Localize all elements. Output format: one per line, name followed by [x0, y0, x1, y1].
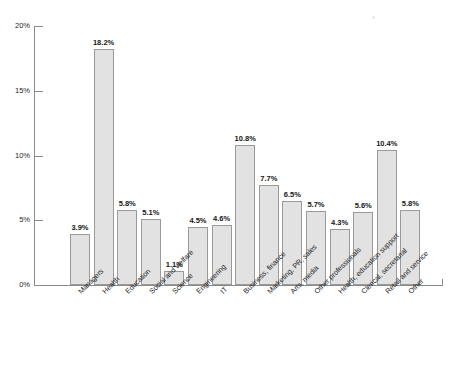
y-axis-tick [34, 91, 43, 92]
bar[interactable] [235, 145, 255, 285]
bar-value-label: 5.1% [131, 209, 171, 217]
bar-value-label: 5.8% [107, 200, 147, 208]
y-axis-tick-label: 0% [2, 281, 30, 289]
bar-value-label: 6.5% [272, 191, 312, 199]
y-axis-tick-label: 15% [2, 87, 30, 95]
y-axis-tick [34, 220, 43, 221]
bar-value-label: 5.8% [390, 200, 430, 208]
y-axis-tick [34, 156, 43, 157]
stray-mark [372, 16, 375, 19]
bar-value-label: 10.8% [225, 135, 265, 143]
bar[interactable] [117, 210, 137, 285]
y-axis-tick-label: 5% [2, 216, 30, 224]
x-axis-line [34, 285, 443, 286]
y-axis-tick-label: 20% [2, 22, 30, 30]
y-axis-tick [34, 26, 43, 27]
bar-value-label: 10.4% [367, 140, 407, 148]
x-axis-end-tick [442, 279, 443, 286]
bar-value-label: 5.7% [296, 201, 336, 209]
bar-value-label: 18.2% [84, 39, 124, 47]
y-axis-tick-label: 10% [2, 152, 30, 160]
bar-chart: 20%15%10%5%0% 3.9%18.2%5.8%5.1%1.1%4.5%4… [0, 0, 455, 371]
bar-value-label: 7.7% [249, 175, 289, 183]
y-axis-tick [34, 285, 43, 286]
bar[interactable] [94, 49, 114, 285]
x-axis-label: IT [219, 285, 229, 295]
